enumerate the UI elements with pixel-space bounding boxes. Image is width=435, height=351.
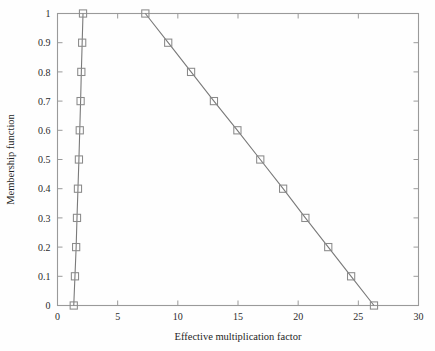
x-axis-tick-label: 30: [414, 311, 424, 322]
y-axis-title: Membership function: [5, 113, 16, 204]
y-axis-tick-label: 0.7: [38, 96, 51, 107]
y-axis-tick-label: 0.8: [38, 67, 51, 78]
y-axis-tick-label: 1: [46, 8, 51, 19]
membership-function-plot: 05101520253000.10.20.30.40.50.60.70.80.9…: [0, 0, 435, 351]
plot-frame: [58, 14, 419, 306]
y-axis-tick-label: 0.1: [38, 271, 51, 282]
y-axis-tick-label: 0.3: [38, 213, 51, 224]
x-axis-tick-label: 25: [353, 311, 363, 322]
y-axis-tick-label: 0.4: [38, 183, 51, 194]
x-axis-tick-label: 20: [293, 311, 303, 322]
x-axis-tick-label: 5: [115, 311, 120, 322]
y-axis-tick-label: 0.9: [38, 37, 51, 48]
y-axis-tick-label: 0.6: [38, 125, 51, 136]
x-axis-tick-label: 10: [173, 311, 183, 322]
chart-figure: 05101520253000.10.20.30.40.50.60.70.80.9…: [0, 0, 435, 351]
y-axis-tick-label: 0.2: [38, 242, 51, 253]
x-axis-tick-label: 0: [55, 311, 60, 322]
x-axis-tick-label: 15: [233, 311, 243, 322]
y-axis-tick-label: 0: [46, 300, 51, 311]
y-axis-tick-label: 0.5: [38, 154, 51, 165]
series-line: [145, 14, 374, 306]
x-axis-title: Effective multiplication factor: [175, 331, 302, 342]
